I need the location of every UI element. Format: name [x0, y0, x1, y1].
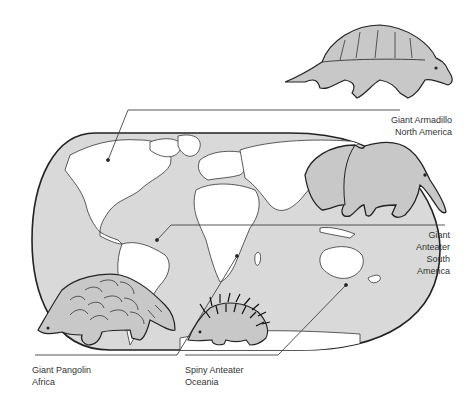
- animal-name: Anteater: [405, 241, 450, 253]
- world-map-diagram: [0, 0, 473, 408]
- region-name: Oceania: [185, 376, 285, 388]
- callout-armadillo-label: Giant Armadillo North America: [380, 114, 452, 138]
- animal-name: Giant Armadillo: [380, 114, 452, 126]
- region-name: South: [405, 253, 450, 265]
- callout-anteater-label: Giant Anteater South America: [405, 229, 450, 277]
- region-name: America: [405, 265, 450, 277]
- region-name: Africa: [32, 376, 132, 388]
- animal-name: Spiny Anteater: [185, 364, 285, 376]
- animal-name: Giant: [405, 229, 450, 241]
- armadillo-illustration: [285, 25, 452, 98]
- animal-name: Giant Pangolin: [32, 364, 132, 376]
- region-name: North America: [380, 126, 452, 138]
- callout-pangolin-label: Giant Pangolin Africa: [32, 364, 132, 388]
- callout-echidna-label: Spiny Anteater Oceania: [185, 364, 285, 388]
